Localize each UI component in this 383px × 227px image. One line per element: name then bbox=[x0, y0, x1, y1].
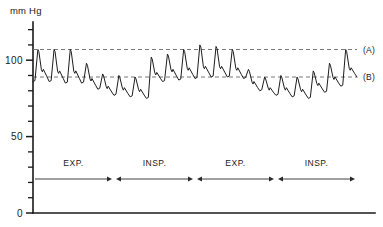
phase-label: EXP. bbox=[225, 158, 245, 168]
y-axis-unit-label: mm Hg bbox=[10, 5, 42, 16]
y-axis-ticks bbox=[26, 30, 33, 213]
phase-label: EXP. bbox=[63, 158, 83, 168]
phase-arrow-head-right bbox=[107, 176, 112, 181]
reference-label-a: (A) bbox=[363, 45, 375, 55]
y-axis-tick-labels: 100500 bbox=[5, 55, 23, 219]
respiratory-phase-markers: EXP.INSP.EXP.INSP. bbox=[35, 158, 355, 182]
phase-arrow-head-right bbox=[188, 176, 193, 181]
phase-arrow-head-left bbox=[278, 176, 283, 181]
pressure-tracing-chart: mm Hg 100500 (A)(B) EXP.INSP.EXP.INSP. bbox=[0, 0, 383, 227]
arterial-pressure-figure: mm Hg 100500 (A)(B) EXP.INSP.EXP.INSP. bbox=[0, 0, 383, 227]
phase-label: INSP. bbox=[143, 158, 167, 168]
reference-lines bbox=[33, 50, 357, 78]
phase-arrow-head-right bbox=[269, 176, 274, 181]
y-axis-tick-label: 0 bbox=[17, 208, 23, 219]
reference-label-b: (B) bbox=[363, 72, 375, 82]
phase-label: INSP. bbox=[305, 158, 329, 168]
arterial-pressure-trace bbox=[33, 45, 357, 98]
reference-line-labels: (A)(B) bbox=[363, 45, 375, 83]
phase-arrow-head-left bbox=[197, 176, 202, 181]
phase-arrow-head-left bbox=[116, 176, 121, 181]
phase-arrow-head-right bbox=[350, 176, 355, 181]
y-axis-tick-label: 50 bbox=[11, 131, 23, 142]
y-axis-tick-label: 100 bbox=[5, 55, 23, 66]
